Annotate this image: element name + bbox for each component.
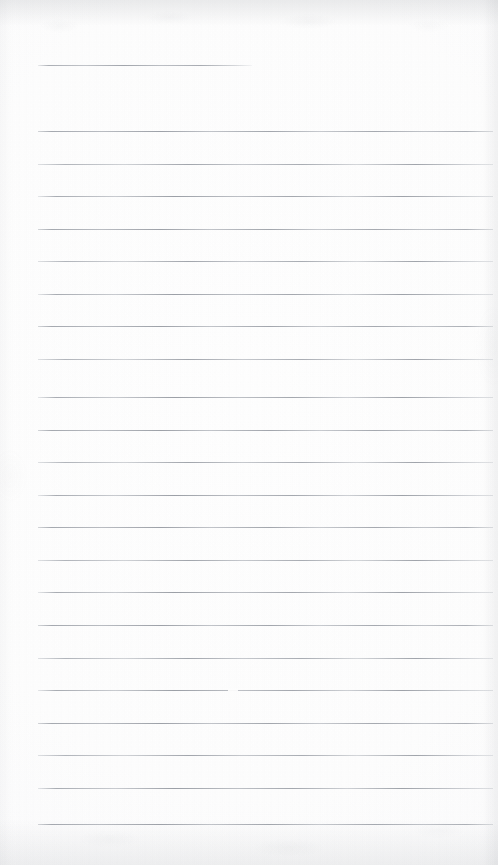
rule-line xyxy=(38,326,493,327)
rule-line xyxy=(38,495,493,496)
rule-line xyxy=(38,462,493,463)
rule-line xyxy=(38,527,493,528)
rule-line xyxy=(38,788,493,789)
rule-line xyxy=(38,658,493,659)
rule-line xyxy=(38,164,493,165)
rule-line xyxy=(38,592,493,593)
scanned-page xyxy=(0,0,498,865)
rule-line xyxy=(38,755,493,756)
rule-line xyxy=(38,229,493,230)
rule-line xyxy=(38,430,493,431)
rule-line xyxy=(38,625,493,626)
rule-line xyxy=(38,131,493,132)
rule-line xyxy=(38,196,493,197)
rule-line xyxy=(38,397,493,398)
rule-line xyxy=(38,359,493,360)
scan-dropout-artifact xyxy=(228,689,238,691)
rule-line xyxy=(38,723,493,724)
rule-line xyxy=(38,824,493,825)
ruled-lines-layer xyxy=(0,0,498,865)
rule-line xyxy=(38,294,493,295)
header-rule-line xyxy=(38,65,252,66)
rule-line xyxy=(38,690,493,691)
rule-line xyxy=(38,261,493,262)
rule-line xyxy=(38,560,493,561)
